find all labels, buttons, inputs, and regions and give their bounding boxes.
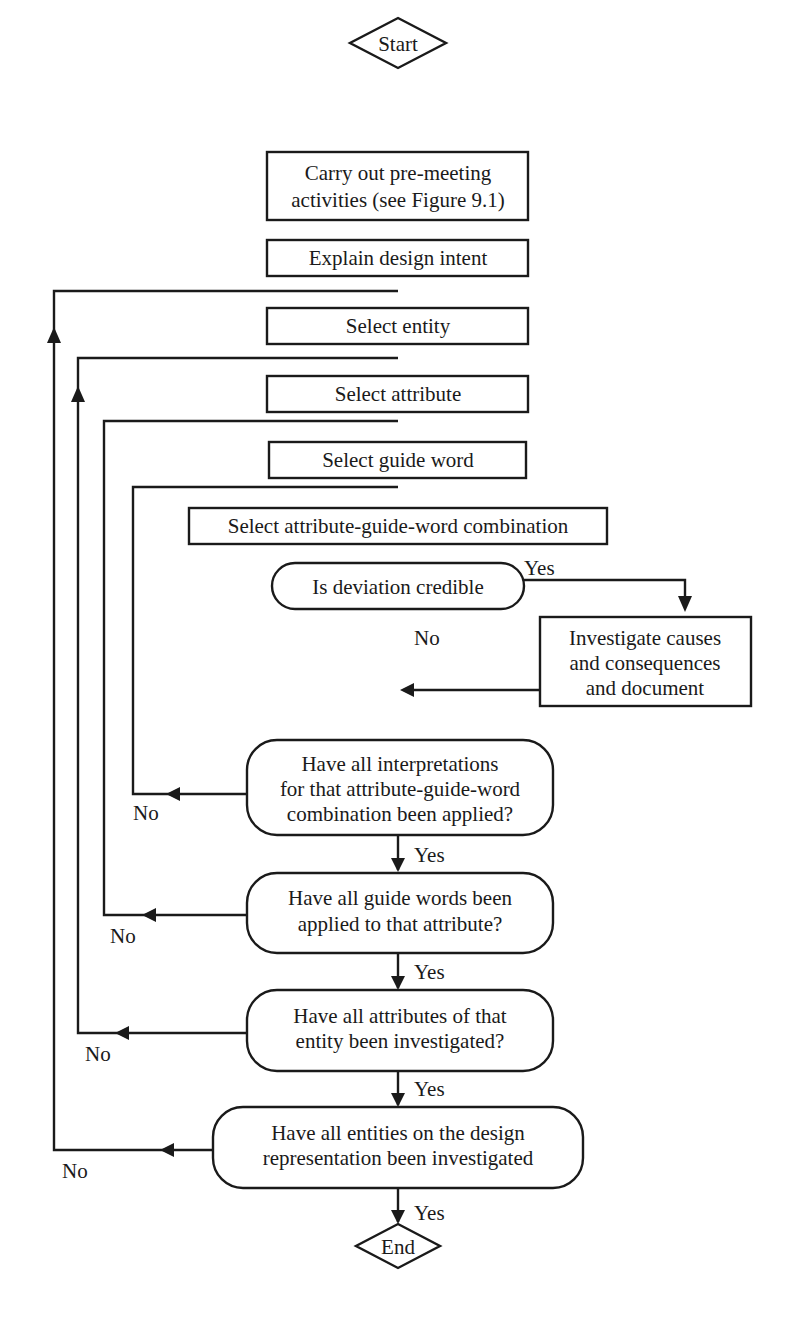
svg-text:activities (see Figure 9.1): activities (see Figure 9.1): [291, 188, 504, 212]
guide-words-decision: Have all guide words been applied to tha…: [247, 873, 553, 953]
arrow-left-icon: [115, 1026, 129, 1040]
arrow-down-icon: [391, 1210, 405, 1224]
arrow-up-icon: [71, 386, 85, 402]
interpretations-decision: Have all interpretations for that attrib…: [247, 740, 553, 835]
arrow-down-icon: [391, 858, 405, 872]
no-label: No: [62, 1159, 88, 1183]
svg-text:and document: and document: [586, 676, 705, 700]
svg-text:combination been applied?: combination been applied?: [287, 802, 513, 826]
no-label: No: [110, 924, 136, 948]
arrow-left-icon: [160, 1143, 174, 1157]
credible-decision: Is deviation credible: [272, 563, 524, 609]
yes-label: Yes: [414, 843, 445, 867]
svg-text:Investigate causes: Investigate causes: [569, 626, 721, 650]
svg-text:Select attribute: Select attribute: [335, 382, 462, 406]
arrow-down-icon: [391, 976, 405, 990]
svg-text:representation been investigat: representation been investigated: [263, 1146, 534, 1170]
svg-text:Explain design intent: Explain design intent: [309, 246, 488, 270]
yes-label: Yes: [414, 1201, 445, 1225]
svg-text:entity been investigated?: entity been investigated?: [296, 1029, 505, 1053]
investigate-step: Investigate causes and consequences and …: [540, 617, 751, 706]
attributes-decision: Have all attributes of that entity been …: [247, 990, 553, 1071]
no-label: No: [85, 1042, 111, 1066]
svg-text:End: End: [381, 1235, 415, 1259]
yes-label: Yes: [524, 556, 555, 580]
arrow-left-icon: [400, 683, 414, 697]
svg-text:Carry out pre-meeting: Carry out pre-meeting: [305, 161, 492, 185]
select-entity-step: Select entity: [267, 308, 528, 344]
svg-text:Select guide word: Select guide word: [322, 448, 474, 472]
no-label: No: [414, 626, 440, 650]
select-attribute-step: Select attribute: [267, 376, 528, 412]
explain-design-intent-step: Explain design intent: [267, 240, 528, 276]
svg-text:Have all entities on the desig: Have all entities on the design: [271, 1121, 525, 1145]
pre-meeting-step: Carry out pre-meeting activities (see Fi…: [267, 152, 528, 220]
svg-text:Have all guide words been: Have all guide words been: [288, 886, 512, 910]
svg-text:Have all interpretations: Have all interpretations: [301, 752, 498, 776]
svg-text:Have all attributes of that: Have all attributes of that: [293, 1004, 507, 1028]
flowchart: Start Carry out pre-meeting activities (…: [0, 0, 801, 1336]
svg-text:Select attribute-guide-word co: Select attribute-guide-word combination: [228, 514, 569, 538]
arrow-up-icon: [47, 327, 61, 343]
yes-label: Yes: [414, 1077, 445, 1101]
arrow-left-icon: [166, 787, 180, 801]
start-terminal: Start: [350, 18, 446, 68]
select-guide-word-step: Select guide word: [269, 442, 526, 478]
yes-label: Yes: [414, 960, 445, 984]
svg-text:and consequences: and consequences: [569, 651, 720, 675]
svg-text:Select entity: Select entity: [346, 314, 451, 338]
svg-text:Is deviation credible: Is deviation credible: [312, 575, 483, 599]
arrow-down-icon: [678, 596, 692, 612]
arrow-down-icon: [391, 1093, 405, 1107]
svg-text:Start: Start: [378, 32, 418, 56]
select-combination-step: Select attribute-guide-word combination: [189, 508, 607, 544]
svg-text:for that attribute-guide-word: for that attribute-guide-word: [280, 777, 521, 801]
end-terminal: End: [356, 1224, 440, 1268]
svg-text:applied to that attribute?: applied to that attribute?: [298, 912, 503, 936]
arrow-left-icon: [142, 908, 156, 922]
entities-decision: Have all entities on the design represen…: [213, 1107, 583, 1188]
no-label: No: [133, 801, 159, 825]
